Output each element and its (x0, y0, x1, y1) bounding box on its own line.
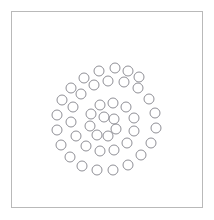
spiral-data-point (66, 83, 76, 93)
spiral-data-point (68, 102, 78, 112)
spiral-data-point (136, 150, 146, 160)
spiral-data-point (129, 113, 139, 123)
spiral-data-point (94, 66, 104, 76)
spiral-data-point (129, 126, 139, 136)
spiral-data-point (92, 130, 102, 140)
spiral-data-point (109, 145, 119, 155)
spiral-data-point (103, 131, 113, 141)
spiral-data-point (65, 152, 75, 162)
spiral-data-point (57, 95, 67, 105)
spiral-scatter-plot (0, 0, 214, 220)
spiral-data-point (108, 165, 118, 175)
spiral-data-point (109, 114, 119, 124)
spiral-data-point (77, 161, 87, 171)
spiral-data-point (99, 112, 109, 122)
spiral-data-point (52, 125, 62, 135)
spiral-marker-group (52, 63, 161, 175)
spiral-data-point (123, 66, 133, 76)
spiral-data-point (81, 141, 91, 151)
spiral-data-point (119, 77, 129, 87)
spiral-data-point (121, 102, 131, 112)
spiral-data-point (92, 165, 102, 175)
spiral-data-point (150, 108, 160, 118)
spiral-data-point (76, 89, 86, 99)
spiral-data-point (66, 117, 76, 127)
spiral-data-point (144, 94, 154, 104)
spiral-data-point (86, 109, 96, 119)
spiral-data-point (108, 98, 118, 108)
spiral-data-point (79, 73, 89, 83)
spiral-data-point (71, 131, 81, 141)
spiral-data-point (122, 138, 132, 148)
spiral-data-point (56, 140, 66, 150)
spiral-data-point (134, 72, 144, 82)
spiral-data-point (123, 160, 133, 170)
spiral-data-point (110, 63, 120, 73)
figure-canvas (0, 0, 214, 220)
spiral-data-point (95, 100, 105, 110)
spiral-data-point (111, 124, 121, 134)
spiral-data-point (151, 123, 161, 133)
spiral-data-point (85, 121, 95, 131)
spiral-data-point (103, 76, 113, 86)
spiral-data-point (146, 138, 156, 148)
spiral-data-point (133, 83, 143, 93)
spiral-data-point (95, 146, 105, 156)
spiral-data-point (52, 110, 62, 120)
spiral-data-point (89, 80, 99, 90)
